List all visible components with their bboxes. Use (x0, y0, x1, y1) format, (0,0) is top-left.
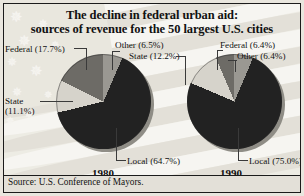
leader-1990-state-h (176, 56, 186, 57)
label-1980-other: Other (6.5%) (115, 40, 163, 51)
label-1980-state-line1: State (5, 96, 23, 106)
title-line-1: The decline in federal urban aid: (66, 8, 238, 22)
leader-1980-local-v (116, 128, 117, 160)
leader-1990-federal-v (217, 50, 218, 70)
leader-1990-federal-h (217, 50, 223, 51)
label-1980-state-line2: (11.1%) (5, 106, 35, 116)
label-1990-state: State (12.2%) (129, 51, 180, 62)
leader-1990-other-h (228, 60, 237, 61)
leader-1980-federal-v (86, 48, 87, 70)
chart-frame: ✵ ✵ ✵ ✵ ✵ ✵ ✵ ✵ ✵ ✵ The decline in feder… (3, 3, 301, 193)
label-1990-federal: Federal (6.4%) (220, 40, 275, 51)
leader-1990-other-v (235, 60, 236, 72)
label-1980-federal: Federal (17.7%) (5, 44, 65, 55)
source-bar: Source: U.S. Conference of Mayors. (4, 175, 300, 192)
leader-1990-local-v (238, 128, 239, 160)
leader-1980-local-h (116, 160, 126, 161)
source-note: Source: U.S. Conference of Mayors. (8, 177, 144, 187)
label-1980-local: Local (64.7%) (127, 156, 180, 167)
label-1990-local: Local (75.0%) (249, 156, 301, 167)
leader-1980-other-v (112, 51, 113, 70)
leader-1990-local-h (238, 160, 248, 161)
pie-chart-1990 (187, 54, 287, 154)
label-1990-other: Other (6.4%) (237, 51, 285, 62)
title-line-2: sources of revenue for the 50 largest U.… (4, 23, 300, 37)
page-title: The decline in federal urban aid: source… (4, 9, 300, 36)
leader-1980-federal-h (74, 48, 87, 49)
leader-1980-other-h (112, 51, 120, 52)
leader-1980-state-h (40, 101, 73, 102)
chart-figure: ✵ ✵ ✵ ✵ ✵ ✵ ✵ ✵ ✵ ✵ The decline in feder… (0, 0, 304, 196)
label-1980-state: State (11.1%) (5, 96, 49, 116)
pie-chart-1980 (56, 54, 156, 154)
leader-1990-state-v (185, 56, 186, 85)
